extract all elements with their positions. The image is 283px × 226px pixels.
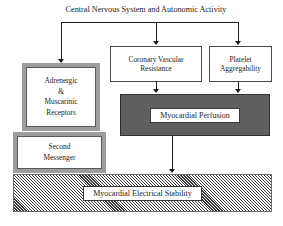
node-adrenergic-muscarinic-receptors[interactable]: Adrenergic & Muscarinic Receptors bbox=[22, 63, 100, 131]
node-second-messenger-line1: Second bbox=[43, 142, 75, 153]
connector-perfusion-to-stability bbox=[172, 136, 173, 172]
node-coronary-line2: Resistance bbox=[128, 64, 183, 74]
node-coronary-line1: Coronary Vascular bbox=[128, 55, 183, 65]
node-coronary-label: Coronary Vascular Resistance bbox=[128, 55, 183, 74]
arrowhead-perfusion-to-stability bbox=[169, 169, 175, 173]
node-adrenergic-line2: & bbox=[44, 87, 77, 98]
node-second-messenger-label: Second Messenger bbox=[43, 142, 75, 163]
node-myocardial-perfusion[interactable]: Myocardial Perfusion bbox=[120, 94, 270, 136]
arrowhead-cns-to-platelet bbox=[235, 41, 241, 45]
node-coronary-vascular-resistance[interactable]: Coronary Vascular Resistance bbox=[110, 46, 202, 82]
flowchart-canvas: Central Nervous System and Autonomic Act… bbox=[0, 0, 283, 226]
node-adrenergic-line4: Receptors bbox=[44, 108, 77, 119]
node-myocardial-electrical-stability-label: Myocardial Electrical Stability bbox=[83, 186, 202, 201]
node-second-messenger-inner: Second Messenger bbox=[17, 136, 102, 169]
node-central-nervous-system: Central Nervous System and Autonomic Act… bbox=[26, 4, 266, 15]
arrowhead-cns-to-coronary bbox=[153, 41, 159, 45]
node-adrenergic-label: Adrenergic & Muscarinic Receptors bbox=[44, 76, 77, 118]
node-myocardial-perfusion-label: Myocardial Perfusion bbox=[150, 108, 240, 123]
node-platelet-line1: Platelet bbox=[220, 55, 261, 65]
node-adrenergic-line3: Muscarinic bbox=[44, 97, 77, 108]
node-adrenergic-inner: Adrenergic & Muscarinic Receptors bbox=[26, 67, 96, 127]
node-platelet-line2: Aggregability bbox=[220, 64, 261, 74]
arrowhead-platelet-to-perfusion bbox=[235, 89, 241, 93]
node-adrenergic-line1: Adrenergic bbox=[44, 76, 77, 87]
node-platelet-aggregability[interactable]: Platelet Aggregability bbox=[209, 46, 272, 82]
connector-cns-to-adrenergic bbox=[61, 22, 62, 62]
connector-bus-horizontal bbox=[61, 22, 239, 23]
node-second-messenger[interactable]: Second Messenger bbox=[13, 132, 106, 173]
node-myocardial-electrical-stability[interactable]: Myocardial Electrical Stability bbox=[13, 174, 272, 212]
node-platelet-label: Platelet Aggregability bbox=[220, 55, 261, 74]
arrowhead-coronary-to-perfusion bbox=[153, 89, 159, 93]
node-second-messenger-line2: Messenger bbox=[43, 153, 75, 164]
